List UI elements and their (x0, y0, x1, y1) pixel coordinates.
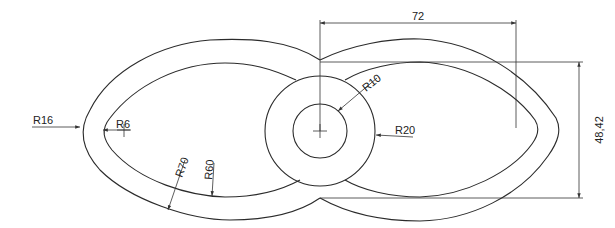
label-r60: R60 (202, 159, 216, 180)
dim-label-4842: 48,42 (593, 116, 605, 144)
label-r70: R70 (173, 156, 191, 179)
label-r10: R10 (360, 72, 383, 94)
label-r20: R20 (395, 124, 415, 136)
cad-drawing: 72 48,42 R16 R6 R70 R60 R10 R20 (0, 0, 615, 228)
dim-label-72: 72 (412, 10, 424, 22)
label-r16: R16 (33, 114, 53, 126)
label-r6: R6 (116, 118, 130, 130)
outer-outline-right (320, 39, 559, 221)
